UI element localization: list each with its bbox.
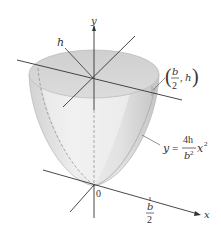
svg-text:=: =: [172, 142, 178, 154]
tick-label-b-over-2: b 2: [146, 201, 154, 225]
svg-text:2: 2: [204, 140, 208, 148]
x-axis: [43, 170, 198, 214]
y-axis-label: y: [90, 15, 97, 26]
x-axis-arrow: [194, 211, 201, 216]
svg-text:h: h: [185, 72, 191, 83]
paraboloid-diagram: y h 0 x ( b 2 , h ) b 2 y = 4h b 2 x 2: [0, 0, 221, 234]
equation-label: y = 4h b 2 x 2: [162, 134, 208, 161]
svg-text:,: ,: [180, 72, 183, 83]
svg-text:x: x: [197, 142, 204, 155]
h-label: h: [57, 36, 64, 49]
svg-text:(: (: [165, 65, 172, 88]
x-axis-label: x: [204, 209, 210, 220]
svg-text:2: 2: [147, 214, 152, 225]
svg-text:y: y: [162, 142, 170, 155]
point-label: ( b 2 , h ): [165, 65, 199, 91]
svg-text:2: 2: [172, 80, 177, 91]
equation-leader-line: [142, 135, 160, 145]
svg-text:b: b: [147, 201, 153, 212]
svg-text:2: 2: [190, 149, 194, 157]
svg-text:4h: 4h: [183, 134, 193, 145]
svg-text:b: b: [172, 66, 178, 77]
origin-label: 0: [96, 188, 101, 199]
z-axis: [70, 185, 94, 212]
svg-text:): ): [192, 65, 199, 88]
